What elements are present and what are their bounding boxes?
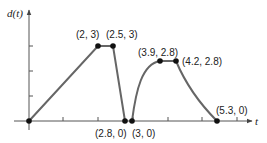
point-label-2-3: (2, 3) [76,29,99,40]
point-label-5.3-0: (5.3, 0) [216,105,248,116]
x-ticks [63,117,237,121]
y-ticks [29,46,33,96]
point-label-2.5-3: (2.5, 3) [106,29,138,40]
point-label-4.2-2.8: (4.2, 2.8) [182,56,222,67]
point-label-3.9-2.8: (3.9, 2.8) [138,47,178,58]
distance-time-chart: d(t) t (2, 3) (2.5, 3) (2.8, 0) (3, 0) (… [0,0,267,143]
point-label-2.8-0: (2.8, 0) [95,128,127,139]
point-label-3-0: (3, 0) [132,128,155,139]
y-axis-label: d(t) [7,7,23,20]
x-axis-label: t [255,115,259,127]
